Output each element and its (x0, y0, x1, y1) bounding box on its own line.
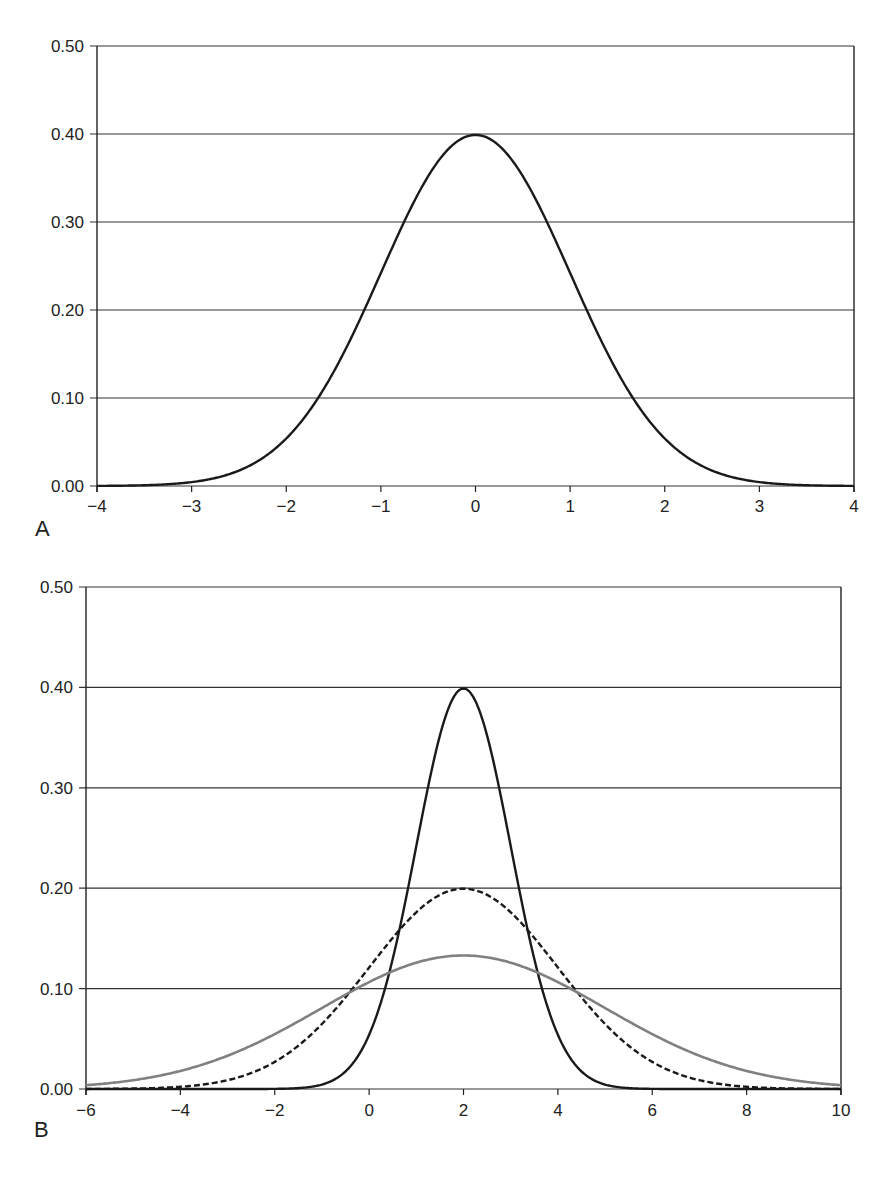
y-tick-label: 0.10 (40, 980, 73, 999)
x-tick-label: −1 (371, 497, 390, 516)
x-tick-label: 6 (648, 1101, 657, 1120)
x-tick-label: 0 (471, 497, 480, 516)
series-line (86, 955, 841, 1085)
panel-b-normal-distributions-comparison: 0.000.100.200.300.400.50−6−4−20246810 (40, 578, 851, 1120)
x-tick-label: −3 (182, 497, 201, 516)
y-tick-label: 0.30 (40, 779, 73, 798)
panel-a-normal-distribution: 0.000.100.200.300.400.50−4−3−2−101234 (51, 37, 859, 516)
x-tick-label: 0 (364, 1101, 373, 1120)
x-tick-label: 10 (832, 1101, 851, 1120)
y-tick-label: 0.20 (40, 879, 73, 898)
x-tick-label: −2 (277, 497, 296, 516)
figure: 0.000.100.200.300.400.50−4−3−2−101234 0.… (0, 0, 882, 1177)
panel-b-label: B (34, 1117, 49, 1142)
x-tick-label: 2 (660, 497, 669, 516)
y-tick-label: 0.00 (40, 1080, 73, 1099)
x-tick-label: −6 (76, 1101, 95, 1120)
x-tick-label: 3 (755, 497, 764, 516)
y-tick-label: 0.30 (51, 213, 84, 232)
y-tick-label: 0.40 (51, 125, 84, 144)
y-tick-label: 0.20 (51, 301, 84, 320)
x-tick-label: −4 (171, 1101, 190, 1120)
x-tick-label: 2 (459, 1101, 468, 1120)
x-tick-label: −4 (87, 497, 106, 516)
x-tick-label: 8 (742, 1101, 751, 1120)
panel-a-label: A (35, 516, 50, 541)
x-tick-label: 4 (849, 497, 858, 516)
y-tick-label: 0.00 (51, 477, 84, 496)
y-tick-label: 0.50 (51, 37, 84, 56)
x-tick-label: −2 (265, 1101, 284, 1120)
x-tick-label: 4 (553, 1101, 562, 1120)
y-tick-label: 0.40 (40, 678, 73, 697)
y-tick-label: 0.10 (51, 389, 84, 408)
x-tick-label: 1 (565, 497, 574, 516)
y-tick-label: 0.50 (40, 578, 73, 597)
